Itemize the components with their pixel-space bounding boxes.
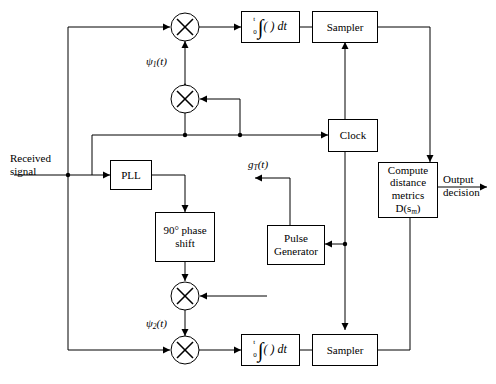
block-sampler-bottom[interactable]: Sampler <box>312 334 378 366</box>
block-integrator-top[interactable]: t 0 ∫ ( ) dt <box>241 11 300 43</box>
signal-label-psi1: ψ1(t) <box>146 55 167 70</box>
integrator-bottom-lower-limit: 0 <box>253 352 257 359</box>
integrator-top-expression: t 0 ∫ ( ) dt <box>254 15 287 37</box>
integral-sign-icon: ∫ <box>258 340 264 361</box>
block-pulse-generator[interactable]: Pulse Generator <box>267 225 325 265</box>
integrator-bottom-body: ( ) dt <box>263 342 286 357</box>
phase-shift-label-line2: shift <box>175 237 195 250</box>
block-pll[interactable]: PLL <box>110 160 152 190</box>
block-distance-metrics[interactable]: Compute distance metrics D(sm) <box>378 162 438 218</box>
integrator-top-limits: t 0 <box>253 15 257 37</box>
input-label-line2: signal <box>10 165 51 178</box>
input-label: Received signal <box>10 152 51 177</box>
integral-sign-icon: ∫ <box>258 17 264 38</box>
phase-shift-label-line1: 90° phase <box>163 224 206 237</box>
sampler-bottom-label: Sampler <box>327 344 364 357</box>
integrator-bottom-expression: t 0 ∫ ( ) dt <box>254 338 287 360</box>
integrator-bottom-upper-limit: t <box>253 339 257 346</box>
metrics-label-line2: distance <box>390 176 426 189</box>
block-sampler-top[interactable]: Sampler <box>312 11 378 43</box>
output-label-line2: decision <box>443 186 480 199</box>
output-label-line1: Output <box>443 173 480 186</box>
block-integrator-bottom[interactable]: t 0 ∫ ( ) dt <box>241 334 300 366</box>
block-clock[interactable]: Clock <box>328 119 378 152</box>
pulse-generator-label-line2: Generator <box>274 245 318 258</box>
pll-label: PLL <box>121 169 141 182</box>
integrator-top-lower-limit: 0 <box>253 29 257 36</box>
sampler-top-label: Sampler <box>327 21 364 34</box>
metrics-label-line3: metrics D(sm) <box>379 189 437 216</box>
metrics-label-line1: Compute <box>388 164 428 177</box>
block-phase-shift[interactable]: 90° phase shift <box>155 212 215 262</box>
integrator-top-body: ( ) dt <box>263 19 286 34</box>
input-label-line1: Received <box>10 152 51 165</box>
pulse-generator-label-line1: Pulse <box>284 232 308 245</box>
diagram-canvas: t 0 ∫ ( ) dt t 0 ∫ ( ) dt Sampler Sample… <box>0 0 496 384</box>
clock-label: Clock <box>340 129 366 142</box>
signal-label-gt: gT(t) <box>248 158 268 173</box>
integrator-bottom-limits: t 0 <box>253 338 257 360</box>
signal-label-psi2: ψ2(t) <box>146 317 167 332</box>
output-label: Output decision <box>443 173 480 198</box>
integrator-top-upper-limit: t <box>253 16 257 23</box>
